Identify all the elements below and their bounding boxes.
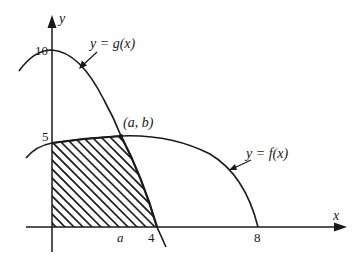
y-axis-arrow-icon [48,15,57,28]
area-between-curves-diagram: y x 10 5 a 4 8 y = g(x) y = f(x) (a, b) [0,0,356,265]
intersection-point [119,134,123,138]
g-label-arrow-icon [79,52,97,69]
x-axis-label: x [332,208,340,223]
x-tick-8: 8 [254,230,261,245]
x-tick-4: 4 [148,230,155,245]
f-label-arrow-icon [229,160,251,170]
x-tick-a: a [117,230,124,245]
y-tick-5: 5 [42,129,49,144]
x-axis [26,223,347,232]
y-tick-10: 10 [35,43,48,58]
f-curve-label: y = f(x) [244,146,288,162]
intersection-label: (a, b) [123,115,154,131]
y-axis-label: y [57,11,66,26]
x-axis-arrow-icon [334,223,347,232]
g-curve-label: y = g(x) [88,36,136,52]
shaded-region [0,120,249,240]
